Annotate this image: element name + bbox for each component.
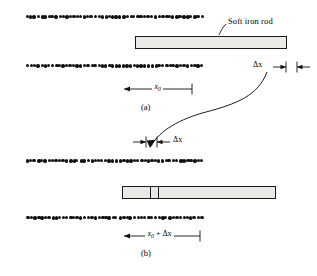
- coil-winding-dot: [157, 159, 160, 162]
- coil-winding-dot: [83, 216, 86, 219]
- coil-winding-dot: [90, 216, 93, 219]
- coil-winding-dot: [128, 216, 131, 219]
- coil-winding-dot: [179, 216, 182, 219]
- leader-line-icon: [219, 24, 226, 35]
- coil-winding-dot: [189, 159, 192, 162]
- dimension-label-x0-plus-delta-x: x0 + Δx: [145, 230, 174, 239]
- coil-winding-dot: [200, 216, 203, 219]
- panel-caption-a: (a): [141, 103, 150, 112]
- coil-winding-dot: [192, 216, 195, 219]
- dimension-label-x0: x0: [152, 83, 163, 92]
- coil-winding-dot: [154, 216, 157, 219]
- coil-winding-dot: [32, 159, 35, 162]
- dimension-label-delta-x-b: Δx: [173, 136, 182, 144]
- coil-winding-dot: [164, 216, 167, 219]
- coil-winding-dot: [111, 159, 114, 162]
- coil-winding-dot: [182, 159, 185, 162]
- soft-iron-rod-label: Soft iron rod: [228, 17, 273, 26]
- coil-winding-dot: [115, 159, 118, 162]
- coil-winding-dot: [43, 159, 46, 162]
- coil-winding-dot: [167, 159, 170, 162]
- physics-figure-soft-iron-rod: Soft iron rod x0 Δx (a) Δx x0 + Δx (b): [0, 0, 317, 276]
- coil-winding-dot: [65, 216, 68, 219]
- panel-caption-b: (b): [141, 249, 151, 258]
- curved-transition-arrow-icon: [147, 72, 267, 148]
- coil-winding-dot: [100, 159, 103, 162]
- coil-winding-dot: [61, 159, 64, 162]
- rod-segment-divider-right: [158, 187, 159, 198]
- coil-winding-dot: [114, 216, 117, 219]
- coil-winding-dots-b-upper: [26, 159, 202, 165]
- coil-winding-dot: [136, 159, 139, 162]
- rod-segment-divider-left: [150, 187, 151, 198]
- delta-x-suffix: + Δx: [154, 229, 172, 238]
- dimension-label-delta-x-a: Δx: [253, 61, 262, 69]
- coil-winding-dot: [75, 159, 78, 162]
- coil-winding-dot: [65, 159, 68, 162]
- x0-subscript: 0: [158, 86, 161, 92]
- coil-winding-dot: [175, 159, 178, 162]
- soft-iron-rod-panel-b: [122, 186, 276, 199]
- coil-winding-dot: [79, 216, 82, 219]
- coil-winding-dot: [161, 159, 164, 162]
- coil-winding-dot: [87, 159, 90, 162]
- coil-winding-dot: [150, 216, 153, 219]
- coil-winding-dot: [72, 216, 75, 219]
- coil-winding-dot: [107, 216, 110, 219]
- dimension-line-delta-x-a: [273, 62, 310, 73]
- coil-winding-dot: [133, 216, 136, 219]
- coil-winding-dots-b-lower: [26, 216, 202, 222]
- coil-winding-dot: [47, 216, 50, 219]
- coil-winding-dot: [82, 159, 85, 162]
- coil-winding-dot: [58, 216, 61, 219]
- coil-winding-dot: [143, 216, 146, 219]
- coil-winding-dot: [94, 216, 97, 219]
